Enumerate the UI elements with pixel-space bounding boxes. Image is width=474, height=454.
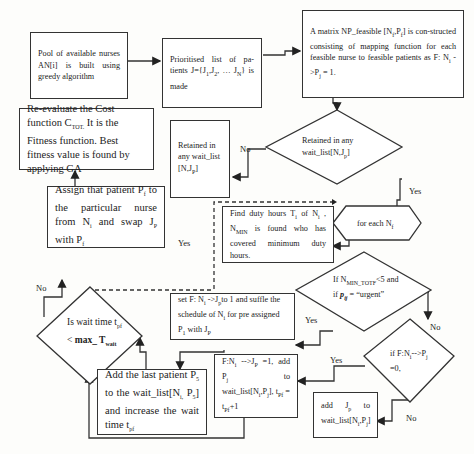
add-last-text: Add the last patient P5 to the wait_list… — [105, 368, 199, 436]
retained-box-text: Retained in any wait_list [N,JP] — [178, 140, 222, 178]
add-last-box: Add the last patient P5 to the wait_list… — [97, 369, 207, 435]
reevaluate-box: Re-evaluate the Cost function CTOT. It i… — [19, 108, 154, 170]
f-ni-box: F:Ni -->JP =1, add Pj to wait_list[Ni,Pj… — [214, 354, 298, 418]
matrix-box: A matrix NP_feasible [Nf,Pf] is con-stru… — [302, 10, 464, 98]
label-no-f: No — [406, 413, 416, 423]
label-yes-urgent: Yes — [305, 315, 317, 325]
label-no-retained: No — [240, 144, 250, 154]
f-ni-text: F:Ni -->JP =1, add Pj to wait_list[Ni,Pj… — [222, 356, 290, 417]
add-jp-box: add Jp to wait_list[Ni,Pj] — [313, 392, 378, 438]
for-each-text: for each Nf — [357, 218, 394, 233]
prioritised-box: Prioritised list of pa-tients J={J1,J2, … — [162, 38, 262, 108]
add-jp-text: add Jp to wait_list[Ni,Pj] — [321, 400, 370, 430]
pool-text: Pool of available nurses AN[i] is built … — [38, 48, 120, 83]
set-f-text: set F: Ni ->Jpto 1 and suffle the schedu… — [178, 294, 287, 339]
label-yes-for-each: Yes — [409, 186, 421, 196]
retained-box: Retained in any wait_list [N,JP] — [170, 120, 230, 198]
urgent-decision-text: If NMIN_TOTF<5 and if pij = “urgent” — [333, 274, 405, 304]
set-f-box: set F: Ni ->Jpto 1 and suffle the schedu… — [170, 293, 295, 340]
find-duty-box: Find duty hours Ti of Ni , NMIN is found… — [222, 206, 334, 263]
label-yes-assign: Yes — [178, 238, 190, 248]
find-duty-text: Find duty hours Ti of Ni , NMIN is found… — [230, 208, 326, 261]
label-no-wait: No — [36, 283, 46, 293]
matrix-text: A matrix NP_feasible [Nf,Pf] is con-stru… — [310, 26, 456, 83]
f-decision-text: if F:Ni-->Pj =0, — [390, 348, 438, 375]
retained-decision-text: Retained in any wait_list[N,Jp] — [302, 135, 374, 162]
wait-decision-text: Is wait time tpf < max_ Twait — [67, 315, 122, 351]
pool-box: Pool of available nurses AN[i] is built … — [30, 32, 128, 99]
assign-box: Assign that patient Pf to the particular… — [47, 186, 165, 248]
label-no-urgent: No — [430, 322, 440, 332]
prioritised-text: Prioritised list of pa-tients J={J1,J2, … — [170, 54, 254, 92]
assign-text: Assign that patient Pf to the particular… — [55, 183, 157, 251]
reevaluate-text: Re-evaluate the Cost function CTOT. It i… — [27, 102, 146, 176]
label-yes-f: Yes — [330, 355, 342, 365]
flowchart-canvas: Pool of available nurses AN[i] is built … — [0, 0, 474, 454]
